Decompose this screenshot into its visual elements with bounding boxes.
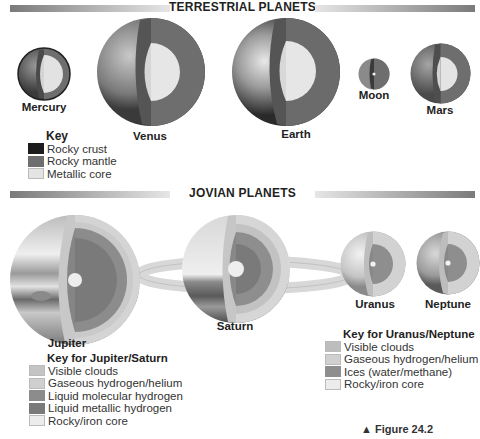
key-label: Gaseous hydrogen/helium [344, 353, 478, 366]
key-item: Visible clouds [325, 341, 478, 354]
key-item: Gaseous hydrogen/helium [325, 353, 478, 366]
swatch-metallic-core [28, 168, 44, 179]
label-mercury: Mercury [22, 101, 67, 113]
key-item: Visible clouds [29, 365, 183, 378]
planet-jupiter [9, 214, 141, 346]
label-neptune: Neptune [425, 298, 471, 310]
swatch-visible-clouds [29, 365, 45, 376]
label-jupiter: Jupiter [48, 337, 86, 349]
uranus-cutaway-icon [340, 231, 406, 297]
moon-cutaway-icon [358, 58, 390, 90]
key-label: Rocky/iron core [48, 415, 128, 428]
mercury-cutaway-icon [17, 47, 71, 101]
jupiter-saturn-key-title: Key for Jupiter/Saturn [47, 352, 183, 365]
swatch-liquid-metallic-hydrogen [29, 403, 45, 414]
earth-cutaway-icon [231, 17, 341, 127]
key-label: Rocky/iron core [344, 378, 424, 391]
key-label: Visible clouds [48, 365, 118, 378]
banner-bar-right [315, 5, 475, 12]
terrestrial-banner: TERRESTRIAL PLANETS [10, 3, 475, 13]
label-earth: Earth [281, 128, 310, 140]
label-moon: Moon [359, 89, 390, 101]
key-label: Liquid molecular hydrogen [48, 390, 183, 403]
terrestrial-key: Key Rocky crust Rocky mantle Metallic co… [28, 130, 117, 180]
key-item: Gaseous hydrogen/helium [29, 377, 183, 390]
swatch-rocky-iron-core [325, 379, 341, 390]
planet-venus [96, 17, 206, 127]
label-saturn: Saturn [217, 320, 253, 332]
label-mars: Mars [427, 104, 454, 116]
swatch-rocky-crust [28, 143, 44, 154]
terrestrial-key-title: Key [46, 130, 117, 143]
swatch-ices [325, 366, 341, 377]
mars-cutaway-icon [410, 43, 471, 104]
key-item: Rocky/iron core [29, 415, 183, 428]
planet-mercury [17, 47, 71, 101]
jovian-banner: JOVIAN PLANETS [10, 189, 475, 199]
planet-neptune [416, 231, 480, 295]
figure-caption: ▲ Figure 24.2 [361, 423, 433, 435]
key-label: Ices (water/methane) [344, 366, 452, 379]
planet-moon [358, 58, 390, 90]
key-label: Rocky crust [47, 143, 107, 156]
planet-uranus [340, 231, 406, 297]
swatch-liquid-molecular-hydrogen [29, 390, 45, 401]
key-label: Liquid metallic hydrogen [48, 402, 172, 415]
uranus-neptune-key: Key for Uranus/Neptune Visible clouds Ga… [325, 328, 478, 391]
swatch-rocky-iron-core [29, 415, 45, 426]
key-item: Ices (water/methane) [325, 366, 478, 379]
key-label: Metallic core [47, 168, 112, 181]
key-item: Rocky/iron core [325, 378, 478, 391]
jupiter-saturn-key: Key for Jupiter/Saturn Visible clouds Ga… [29, 352, 183, 427]
key-item: Metallic core [28, 168, 117, 181]
key-item: Liquid molecular hydrogen [29, 390, 183, 403]
label-uranus: Uranus [355, 298, 395, 310]
venus-cutaway-icon [96, 17, 206, 127]
saturn-cutaway-icon [181, 214, 291, 324]
neptune-cutaway-icon [416, 231, 480, 295]
jupiter-cutaway-icon [9, 214, 141, 346]
key-label: Gaseous hydrogen/helium [48, 377, 182, 390]
uranus-neptune-key-title: Key for Uranus/Neptune [343, 328, 478, 341]
planet-mars [410, 43, 471, 104]
key-label: Visible clouds [344, 341, 414, 354]
key-label: Rocky mantle [47, 155, 117, 168]
planet-saturn [181, 214, 291, 324]
key-item: Rocky mantle [28, 155, 117, 168]
banner-bar-right [315, 191, 475, 198]
swatch-gaseous-hydrogen-helium [325, 354, 341, 365]
planet-earth [231, 17, 341, 127]
swatch-gaseous-hydrogen-helium [29, 378, 45, 389]
swatch-rocky-mantle [28, 156, 44, 167]
swatch-visible-clouds [325, 341, 341, 352]
label-venus: Venus [133, 130, 167, 142]
key-item: Rocky crust [28, 143, 117, 156]
key-item: Liquid metallic hydrogen [29, 402, 183, 415]
